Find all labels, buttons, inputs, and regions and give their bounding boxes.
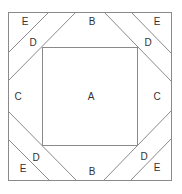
label-top-right-corner: E bbox=[154, 16, 161, 27]
label-bottom-right-corner: E bbox=[154, 162, 161, 173]
quilt-block-diagram: A B B C C D D D D E E E E bbox=[0, 0, 182, 194]
label-top-left-corner: E bbox=[22, 16, 29, 27]
label-bottom-right-strip: D bbox=[140, 151, 147, 162]
label-left: C bbox=[14, 91, 21, 102]
label-top-right-strip: D bbox=[144, 37, 151, 48]
label-top-left-strip: D bbox=[29, 37, 36, 48]
label-bottom-left-strip: D bbox=[32, 152, 39, 163]
label-center: A bbox=[88, 91, 95, 102]
label-right: C bbox=[153, 91, 160, 102]
label-bottom: B bbox=[89, 166, 96, 177]
label-bottom-left-corner: E bbox=[20, 163, 27, 174]
label-top: B bbox=[89, 16, 96, 27]
